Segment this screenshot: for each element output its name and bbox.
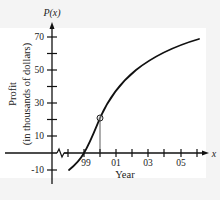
y-function-label: P(x) — [42, 7, 61, 19]
y-tick-label: 30 — [35, 98, 45, 108]
y-tick-label: -10 — [31, 165, 44, 175]
x-axis-arrow-icon — [202, 151, 209, 156]
x-tick-label: 01 — [111, 158, 121, 168]
profit-curve — [69, 39, 199, 170]
y-axis-arrow-icon — [50, 22, 55, 29]
y-tick-label: 50 — [35, 65, 45, 75]
x-axis-title: Year — [115, 169, 135, 180]
y-axis-title: Profit — [7, 82, 18, 106]
x-variable-label: x — [211, 148, 217, 159]
chart-svg: 70 50 30 10 -10 99 01 03 05 P(x) x Year … — [0, 0, 220, 200]
y-tick-label: 10 — [35, 131, 45, 141]
highlighted-point — [97, 115, 103, 121]
y-tick-label: 70 — [35, 32, 45, 42]
x-tick-label: 05 — [176, 158, 186, 168]
y-axis-subtitle: (in thousands of dollars) — [21, 42, 33, 145]
x-tick-label: 99 — [81, 158, 91, 168]
chart-figure: 70 50 30 10 -10 99 01 03 05 P(x) x Year … — [0, 0, 220, 200]
x-tick-label: 03 — [143, 158, 153, 168]
